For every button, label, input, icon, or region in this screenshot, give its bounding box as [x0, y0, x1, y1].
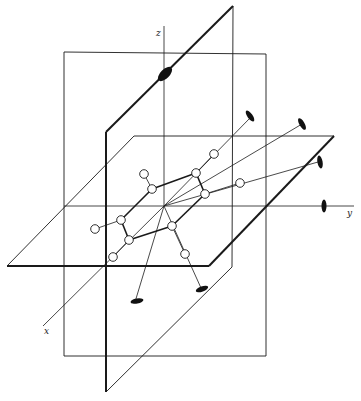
- bonds-group: [95, 154, 240, 257]
- diagram-canvas: xyz: [0, 0, 361, 401]
- vertical-rect-plane-edge: [64, 52, 266, 54]
- ring-bond: [129, 226, 172, 240]
- atom-C2: [192, 169, 201, 178]
- atom-C1: [148, 185, 157, 194]
- twofold-axis-symbol-icon: [296, 117, 307, 131]
- atom-H4: [181, 250, 190, 259]
- twofold-axis-symbol-icon: [130, 297, 144, 304]
- atom-H1: [140, 170, 149, 179]
- substituent-bond: [205, 183, 240, 194]
- atom-C3: [201, 190, 210, 199]
- ring-bond: [152, 173, 196, 189]
- y-axis-symbol-icon: [322, 200, 327, 213]
- atom-H6: [91, 225, 100, 234]
- ring-bond: [121, 189, 152, 220]
- atom-C4: [168, 222, 177, 231]
- atom-H5: [109, 253, 118, 262]
- twofold-axis-symbol-icon: [316, 155, 323, 169]
- axis-symbols-group: [130, 64, 326, 304]
- symmetry-diagram: xyz: [0, 0, 361, 401]
- atom-H2: [210, 150, 219, 159]
- rotation-axes-group: [135, 118, 318, 302]
- atom-C5: [125, 236, 134, 245]
- horizontal-plane-edge: [209, 136, 334, 266]
- twofold-axis-symbol-icon: [244, 109, 256, 123]
- diagonal-dihedral-plane-edge: [106, 267, 232, 392]
- z-axis-label: z: [155, 28, 161, 38]
- atoms-group: [91, 150, 245, 262]
- C2-d-line: [164, 206, 201, 288]
- atom-C6: [117, 216, 126, 225]
- y-axis-label: y: [346, 208, 353, 218]
- horizontal-plane-edge: [7, 136, 134, 266]
- atom-H3: [236, 179, 245, 188]
- x-axis-label: x: [44, 326, 49, 336]
